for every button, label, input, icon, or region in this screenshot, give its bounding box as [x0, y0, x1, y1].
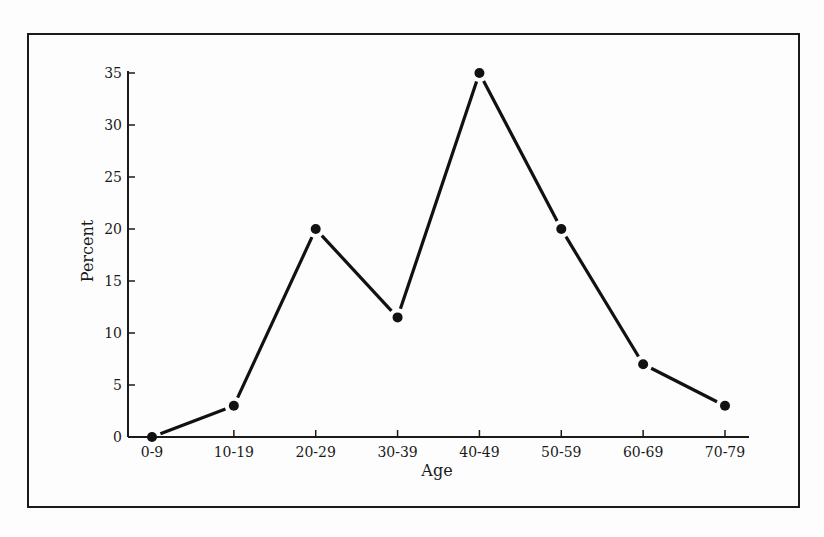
y-axis-title: Percent [78, 219, 97, 282]
series-segment [651, 368, 717, 401]
data-series [147, 68, 730, 442]
series-segment [160, 409, 225, 434]
data-point-marker [311, 224, 321, 234]
y-tick-label: 0 [113, 429, 122, 445]
data-point-marker [474, 68, 484, 78]
data-point-marker [556, 224, 566, 234]
y-tick-label: 25 [104, 169, 122, 185]
x-tick-label: 10-19 [214, 444, 254, 460]
y-tick-label: 30 [104, 117, 122, 133]
y-tick-label: 15 [104, 273, 122, 289]
series-segment [322, 236, 392, 311]
x-tick-label: 0-9 [141, 444, 164, 460]
x-axis-title: Age [420, 461, 452, 480]
series-segment [400, 82, 476, 309]
data-point-marker [393, 312, 403, 322]
data-point-marker [147, 432, 157, 442]
y-tick-label: 5 [113, 377, 122, 393]
x-tick-label: 30-39 [377, 444, 417, 460]
x-tick-label: 40-49 [459, 444, 499, 460]
line-chart: 051015202530350-910-1920-2930-3940-4950-… [0, 0, 824, 537]
data-point-marker [229, 401, 239, 411]
x-tick-label: 20-29 [296, 444, 336, 460]
x-tick-label: 60-69 [623, 444, 663, 460]
y-tick-label: 10 [104, 325, 122, 341]
data-point-marker [638, 359, 648, 369]
x-tick-label: 70-79 [705, 444, 745, 460]
data-point-marker [720, 401, 730, 411]
y-tick-label: 35 [104, 65, 122, 81]
axes: 051015202530350-910-1920-2930-3940-4950-… [104, 65, 749, 460]
series-segment [484, 81, 557, 221]
y-tick-label: 20 [104, 221, 122, 237]
x-tick-label: 50-59 [541, 444, 581, 460]
series-segment [238, 237, 312, 397]
series-segment [566, 237, 639, 357]
